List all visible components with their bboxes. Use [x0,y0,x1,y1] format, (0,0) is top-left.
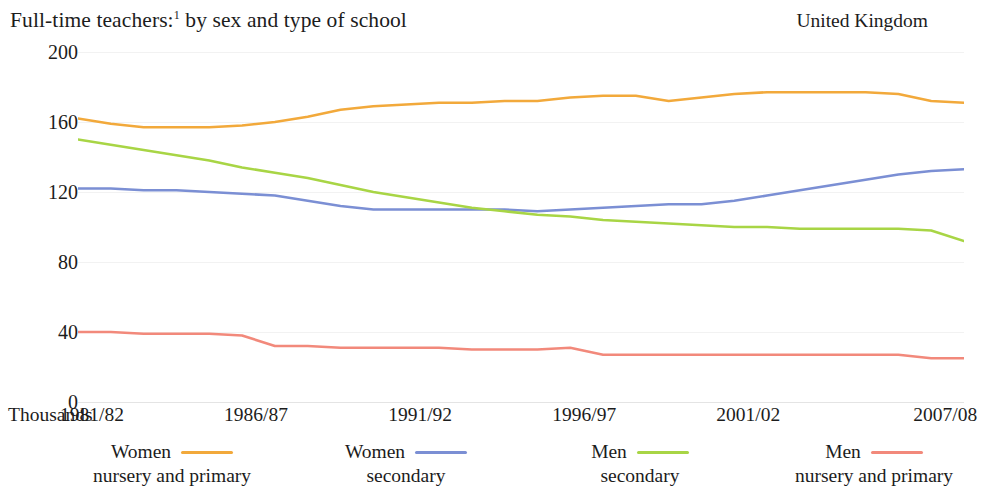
series-line [78,92,964,127]
plot-area: 20016012080400 [0,52,964,402]
legend-item-sublabel: nursery and primary [754,464,982,488]
legend-item[interactable]: Mensecondary [520,440,760,488]
legend-color-swatch [181,451,233,454]
y-axis-tick-label: 80 [0,252,78,272]
legend-item-label: Women [345,441,405,463]
legend-color-swatch [871,451,923,454]
series-line [78,332,964,358]
legend-item-label: Men [591,441,627,463]
legend-item[interactable]: Mennursery and primary [754,440,982,488]
legend-item-sublabel: nursery and primary [52,464,292,488]
legend-item-sublabel: secondary [286,464,526,488]
y-axis-tick-label: 200 [0,42,78,62]
series-line [78,169,964,211]
plot-canvas [78,52,964,402]
legend-item-sublabel: secondary [520,464,760,488]
x-axis-tick-label: 1986/87 [224,404,288,426]
x-axis-tick-label: 2001/02 [716,404,780,426]
page-title-rest: by sex and type of school [180,8,407,32]
page-title-main: Full-time teachers: [10,8,174,32]
series-lines [78,52,964,402]
legend-item-label: Women [111,441,171,463]
page-title: Full-time teachers:1 by sex and type of … [10,8,407,33]
gridline [78,402,964,403]
x-axis-tick-label: 2007/08 [913,404,977,426]
legend-item[interactable]: Womensecondary [286,440,526,488]
y-axis-tick-label: 160 [0,112,78,132]
y-axis-tick-label: 120 [0,182,78,202]
x-axis: Thousands 1981/821986/871991/921996/9720… [0,404,964,432]
x-axis-tick-label: 1991/92 [388,404,452,426]
chart-header: Full-time teachers:1 by sex and type of … [0,8,964,44]
y-axis: 20016012080400 [0,52,78,402]
chart-legend: Womennursery and primaryWomensecondaryMe… [0,440,964,491]
legend-item-label: Men [825,441,861,463]
legend-color-swatch [637,451,689,454]
series-line [78,140,964,242]
x-axis-tick-label: 1996/97 [552,404,616,426]
x-axis-tick-label: 1981/82 [60,404,124,426]
region-label: United Kingdom [796,10,928,32]
legend-color-swatch [415,451,467,454]
legend-item[interactable]: Womennursery and primary [52,440,292,488]
y-axis-tick-label: 40 [0,322,78,342]
